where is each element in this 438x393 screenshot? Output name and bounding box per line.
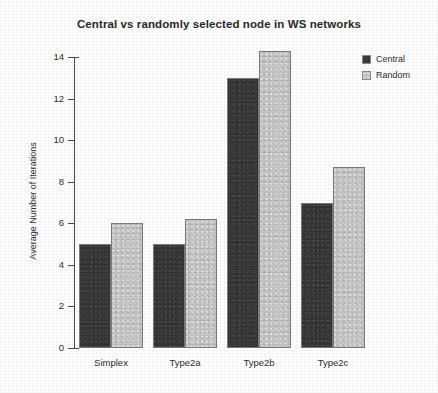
y-tick-mark: [68, 265, 74, 266]
bar-type2a-random: [185, 219, 217, 348]
bar-type2c-random: [333, 167, 365, 348]
bar-type2b-central: [227, 78, 259, 348]
y-tick-mark: [68, 182, 74, 183]
legend-swatch-icon: [362, 71, 371, 80]
legend-label: Random: [376, 70, 410, 80]
bar-simplex-central: [79, 244, 111, 348]
legend-entry-central: Central: [362, 52, 410, 66]
x-tick-label: Type2c: [288, 357, 378, 368]
y-axis-title: Average Number of Iterations: [28, 101, 38, 301]
legend-label: Central: [376, 54, 405, 64]
y-tick-label: 14: [24, 51, 64, 62]
y-tick-mark: [68, 348, 74, 349]
bar-type2b-random: [259, 51, 291, 348]
y-tick-label: 0: [24, 342, 64, 353]
legend-entry-random: Random: [362, 68, 410, 82]
y-tick-mark: [68, 99, 74, 100]
y-tick-mark: [68, 306, 74, 307]
y-axis-cap-top: [74, 57, 79, 58]
y-tick-mark: [68, 223, 74, 224]
y-axis-line: [74, 57, 75, 349]
y-tick-label: 2: [24, 300, 64, 311]
chart-legend: CentralRandom: [362, 52, 410, 84]
y-axis-cap-bottom: [74, 348, 79, 349]
bar-type2c-central: [301, 203, 333, 349]
y-tick-mark: [68, 57, 74, 58]
y-tick-mark: [68, 140, 74, 141]
bar-type2a-central: [153, 244, 185, 348]
bar-simplex-random: [111, 223, 143, 348]
legend-swatch-icon: [362, 55, 371, 64]
